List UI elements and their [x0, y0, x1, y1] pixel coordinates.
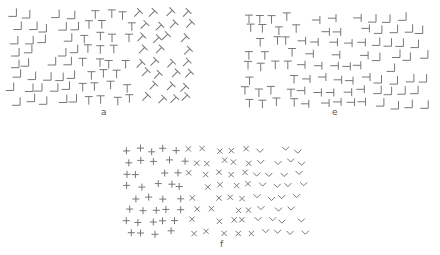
texture-glyph-l-corner-right: [58, 22, 66, 30]
texture-glyph-t: [108, 34, 116, 42]
texture-glyph-plus: [137, 230, 144, 237]
texture-glyph-t: [146, 8, 157, 19]
texture-glyph-t: [330, 62, 338, 70]
texture-glyph-t: [134, 59, 145, 70]
texture-glyph-v: [269, 217, 276, 221]
texture-glyph-l-corner-right: [55, 73, 63, 81]
texture-glyph-plus: [173, 147, 180, 154]
texture-glyph-l-corner-right: [404, 100, 412, 108]
texture-glyph-t: [344, 39, 352, 47]
texture-glyph-x: [246, 161, 251, 166]
texture-glyph-v: [278, 220, 285, 224]
texture-glyph-t: [358, 98, 366, 106]
panel-label-e: e: [332, 108, 338, 117]
texture-glyph-x: [203, 229, 208, 234]
texture-glyph-t: [362, 73, 370, 81]
texture-glyph-t: [180, 8, 191, 19]
texture-glyph-x: [186, 146, 191, 151]
texture-glyph-t: [85, 97, 93, 105]
texture-glyph-t: [241, 87, 249, 95]
texture-glyph-x: [239, 196, 244, 201]
texture-glyph-x: [186, 170, 191, 175]
texture-glyph-x: [229, 172, 234, 177]
texture-glyph-x: [190, 195, 195, 200]
texture-glyph-l-corner-right: [374, 75, 382, 83]
texture-glyph-plus: [124, 171, 131, 178]
texture-panel-e: e: [220, 0, 440, 125]
texture-glyph-plus: [171, 217, 178, 224]
texture-glyph-l-corner-right: [39, 96, 47, 104]
texture-glyph-l-corner-right: [71, 22, 79, 30]
texture-glyph-t: [357, 38, 365, 46]
texture-glyph-t: [360, 51, 368, 59]
texture-glyph-t: [297, 87, 305, 95]
texture-glyph-x: [229, 148, 234, 153]
texture-glyph-x: [204, 161, 209, 166]
texture-glyph-x: [246, 207, 251, 212]
texture-glyph-l-corner-right: [10, 36, 18, 44]
texture-glyph-t: [164, 7, 175, 18]
texture-glyph-x: [189, 217, 194, 222]
texture-glyph-t: [353, 14, 361, 22]
texture-glyph-t: [301, 100, 309, 108]
texture-glyph-t: [268, 16, 276, 24]
texture-glyph-t: [178, 83, 189, 94]
texture-glyph-plus: [155, 180, 162, 187]
texture-glyph-l-corner-right: [372, 53, 380, 61]
texture-glyph-l-corner-right: [415, 26, 423, 34]
texture-glyph-l-corner-right: [392, 50, 400, 58]
texture-glyph-l-corner-right: [58, 48, 66, 56]
texture-glyph-plus: [123, 182, 130, 189]
texture-glyph-t: [321, 28, 329, 36]
texture-glyph-v: [281, 173, 288, 177]
texture-glyph-l-corner-right: [62, 81, 70, 89]
texture-glyph-t: [353, 61, 361, 69]
texture-glyph-l-corner-right: [391, 101, 399, 109]
texture-glyph-x: [217, 149, 222, 154]
texture-glyph-plus: [128, 229, 135, 236]
texture-glyph-t: [179, 92, 190, 103]
texture-glyph-v: [278, 195, 285, 199]
texture-glyph-l-corner-right: [410, 86, 418, 94]
texture-glyph-t: [288, 49, 296, 57]
texture-glyph-plus: [137, 157, 144, 164]
texture-glyph-t: [347, 98, 355, 106]
texture-glyph-x: [231, 159, 236, 164]
texture-glyph-t: [105, 61, 113, 69]
texture-glyph-x: [217, 182, 222, 187]
panel-label-a: a: [101, 108, 107, 117]
texture-glyph-t: [257, 63, 265, 71]
texture-glyph-v: [274, 184, 281, 188]
texture-glyph-l-corner-right: [59, 95, 67, 103]
texture-glyph-t: [256, 16, 264, 24]
texture-glyph-plus: [159, 145, 166, 152]
texture-glyph-v: [265, 173, 272, 177]
texture-glyph-t: [178, 33, 189, 44]
texture-glyph-t: [98, 21, 106, 29]
texture-glyph-x: [217, 219, 222, 224]
texture-glyph-l-corner-right: [11, 60, 19, 68]
texture-glyph-plus: [177, 195, 184, 202]
texture-glyph-t: [282, 37, 290, 45]
texture-glyph-v: [294, 150, 301, 154]
texture-glyph-t: [245, 52, 253, 60]
texture-glyph-l-corner-right: [22, 10, 30, 18]
texture-glyph-t: [153, 45, 164, 56]
texture-glyph-t: [342, 62, 350, 70]
texture-glyph-l-corner-right: [38, 24, 46, 32]
texture-glyph-t: [151, 70, 162, 81]
texture-glyph-t: [287, 89, 295, 97]
texture-glyph-t: [159, 31, 170, 42]
texture-glyph-v: [257, 149, 264, 153]
texture-glyph-v: [288, 207, 295, 211]
texture-glyph-plus: [140, 207, 147, 214]
texture-glyph-t: [139, 67, 150, 78]
texture-glyph-t: [292, 25, 300, 33]
texture-glyph-t: [169, 69, 180, 80]
texture-glyph-plus: [175, 169, 182, 176]
texture-glyph-t: [96, 59, 104, 67]
texture-glyph-v: [302, 231, 309, 235]
texture-glyph-t: [84, 45, 92, 53]
texture-glyph-l-corner-right: [376, 98, 384, 106]
texture-glyph-t: [138, 20, 149, 31]
